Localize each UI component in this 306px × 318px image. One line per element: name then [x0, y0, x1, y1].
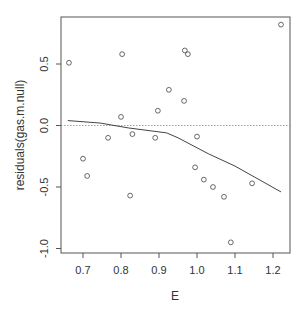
x-tick-label: 0.9 [151, 264, 166, 276]
y-tick-label: 0.5 [38, 56, 50, 71]
data-point [153, 135, 158, 140]
data-point [120, 52, 125, 57]
y-axis: -1.0-0.50.00.5 [38, 56, 61, 258]
x-tick-label: 1.1 [227, 264, 242, 276]
data-point [185, 52, 190, 57]
x-tick-label: 1.0 [189, 264, 204, 276]
data-point [155, 108, 160, 113]
data-point [67, 60, 72, 65]
data-point [81, 156, 86, 161]
y-tick-label: -0.5 [38, 178, 50, 197]
residual-points [67, 22, 284, 245]
data-point [211, 185, 216, 190]
data-point [195, 134, 200, 139]
scatter-plot: 0.70.80.91.01.11.2 -1.0-0.50.00.5 E resi… [0, 0, 306, 318]
data-point [279, 22, 284, 27]
data-point [85, 174, 90, 179]
x-tick-label: 0.7 [75, 264, 90, 276]
x-tick-label: 1.2 [265, 264, 280, 276]
data-point [128, 193, 133, 198]
x-axis: 0.70.80.91.01.11.2 [75, 253, 280, 276]
y-tick-label: 0.0 [38, 118, 50, 133]
data-point [106, 135, 111, 140]
y-tick-label: -1.0 [38, 239, 50, 258]
data-point [250, 181, 255, 186]
data-point [201, 177, 206, 182]
plot-frame [61, 17, 290, 253]
x-axis-label: E [171, 289, 179, 303]
y-axis-label: residuals(gas.m.null) [13, 80, 27, 191]
data-point [228, 240, 233, 245]
smooth-curve [68, 121, 281, 192]
data-point [182, 99, 187, 104]
data-point [166, 87, 171, 92]
data-point [222, 194, 227, 199]
data-point [119, 114, 124, 119]
data-point [193, 165, 198, 170]
x-tick-label: 0.8 [113, 264, 128, 276]
data-point [130, 132, 135, 137]
